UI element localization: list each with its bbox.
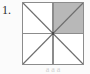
caption-fragment-text: a a a	[22, 66, 84, 74]
figure-container: 1. a a a	[0, 0, 90, 74]
caption-strip: a a a	[22, 66, 84, 74]
square-diagram	[22, 2, 84, 65]
center-point	[52, 32, 54, 34]
item-number-label: 1.	[2, 2, 19, 19]
